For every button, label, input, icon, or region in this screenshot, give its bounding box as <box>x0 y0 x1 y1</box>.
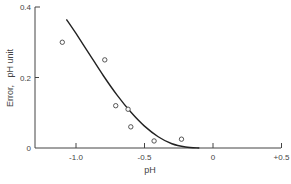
x-tick-label: +0.5 <box>274 153 290 162</box>
fitted-curve <box>66 19 199 148</box>
y-tick-label: 0.2 <box>20 74 32 83</box>
x-tick-label: -1.0 <box>69 153 83 162</box>
chart: 00.20.4-1.0-0.50+0.5 pH Error, pH unit <box>0 0 291 184</box>
data-point-marker <box>60 40 64 44</box>
x-tick-label: -0.5 <box>138 153 152 162</box>
data-point-marker <box>114 104 118 108</box>
ticks: 00.20.4-1.0-0.50+0.5 <box>20 3 290 162</box>
y-tick-label: 0.4 <box>20 3 32 12</box>
x-tick-label: 0 <box>211 153 216 162</box>
data-points <box>60 40 184 143</box>
y-tick-label: 0 <box>27 144 32 153</box>
x-axis-label: pH <box>144 165 156 175</box>
data-point-marker <box>129 125 133 129</box>
y-axis-label: Error, pH unit <box>5 48 15 107</box>
data-point-marker <box>126 107 130 111</box>
data-point-marker <box>152 139 156 143</box>
data-point-marker <box>103 58 107 62</box>
data-point-marker <box>179 137 183 141</box>
curve-path <box>66 19 199 148</box>
